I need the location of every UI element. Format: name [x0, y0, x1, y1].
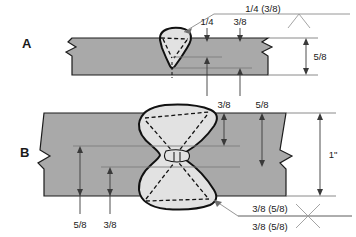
panel-b: 5/8 3/8 3/8 5/8 1" 3/8 (5/8) 3/8 (5/8): [20, 99, 352, 232]
weld-symbol-b-text-above: 3/8 (5/8): [252, 203, 287, 214]
weld-b-root-face: [165, 150, 190, 162]
dim-b-3-8-label: 3/8: [217, 99, 230, 110]
dim-a-thickness-arrowhead-top: [303, 38, 309, 45]
dim-b-thickness-label: 1": [329, 149, 338, 160]
dim-a-quarter-label: 1/4: [200, 16, 213, 27]
dim-b-thickness-arrowhead-bottom: [317, 189, 323, 196]
dim-b-5-8-label: 5/8: [255, 99, 268, 110]
dim-a-thickness-arrowhead-bottom: [303, 68, 309, 75]
weld-symbol-a-vee: [288, 14, 310, 28]
dim-b-left-3-8-label: 3/8: [103, 219, 116, 230]
panel-a: 1/4 (3/8) 1/4 3/8 5/8 A: [22, 3, 350, 96]
dim-a-thickness-label: 5/8: [313, 51, 326, 62]
figure-canvas: 1/4 (3/8) 1/4 3/8 5/8 A: [0, 0, 356, 237]
panel-b-letter: B: [20, 145, 29, 160]
dim-a-threeeighth-label: 3/8: [233, 16, 246, 27]
leader-arrowhead-b: [214, 200, 222, 207]
weld-symbol-b-text-below: 3/8 (5/8): [252, 221, 287, 232]
weld-symbol-a-text: 1/4 (3/8): [245, 3, 280, 14]
dim-b-left-5-8-label: 5/8: [73, 219, 86, 230]
welding-symbol-figure: 1/4 (3/8) 1/4 3/8 5/8 A: [0, 0, 356, 237]
panel-a-letter: A: [22, 36, 32, 51]
dim-b-thickness-arrowhead-top: [317, 113, 323, 120]
